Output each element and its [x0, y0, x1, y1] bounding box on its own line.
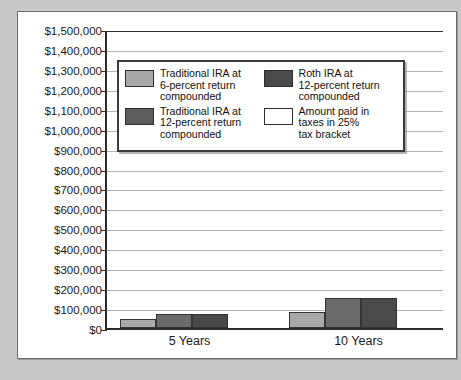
y-axis-label: $1,000,000 — [18, 125, 102, 137]
x-axis-category-label: 5 Years — [105, 334, 274, 348]
legend-label: Roth IRA at 12-percent return compounded — [299, 68, 380, 103]
legend-item: Traditional IRA at 12-percent return com… — [125, 106, 260, 141]
legend-label: Traditional IRA at 12-percent return com… — [160, 106, 241, 141]
y-axis-label: $1,400,000 — [18, 45, 102, 57]
y-axis-label: $200,000 — [18, 284, 102, 296]
y-axis-label: $900,000 — [18, 145, 102, 157]
legend-swatch-icon — [264, 70, 293, 87]
legend-item: Amount paid in taxes in 25% tax bracket — [264, 106, 399, 141]
legend-label: Traditional IRA at 6-percent return comp… — [160, 68, 241, 103]
legend-item: Roth IRA at 12-percent return compounded — [264, 68, 399, 103]
y-axis-label: $500,000 — [18, 224, 102, 236]
bar — [325, 298, 361, 328]
bar-chart: $1,500,000$1,400,000$1,300,000$1,200,000… — [18, 12, 458, 360]
chart-panel: $1,500,000$1,400,000$1,300,000$1,200,000… — [17, 11, 457, 359]
x-axis-category-labels: 5 Years10 Years — [105, 334, 443, 356]
y-axis-label: $1,200,000 — [18, 85, 102, 97]
bar — [120, 319, 156, 328]
y-axis-label: $100,000 — [18, 304, 102, 316]
bar — [289, 312, 325, 328]
legend-swatch-icon — [125, 70, 154, 87]
y-axis-labels: $1,500,000$1,400,000$1,300,000$1,200,000… — [18, 31, 102, 330]
legend-label: Amount paid in taxes in 25% tax bracket — [299, 106, 370, 141]
y-axis-tick — [101, 330, 107, 331]
legend-item: Traditional IRA at 6-percent return comp… — [125, 68, 260, 103]
x-axis-category-label: 10 Years — [274, 334, 443, 348]
y-axis-label: $1,300,000 — [18, 65, 102, 77]
y-axis-label: $1,100,000 — [18, 105, 102, 117]
bar — [156, 314, 192, 328]
legend-swatch-icon — [125, 108, 154, 125]
page-background: $1,500,000$1,400,000$1,300,000$1,200,000… — [0, 0, 461, 380]
chart-legend: Traditional IRA at 6-percent return comp… — [117, 60, 405, 152]
y-axis-label: $700,000 — [18, 184, 102, 196]
y-axis-label: $800,000 — [18, 165, 102, 177]
bar — [192, 314, 228, 328]
y-axis-label: $0 — [18, 324, 102, 336]
bar — [361, 298, 397, 328]
y-axis-label: $1,500,000 — [18, 25, 102, 37]
y-axis-label: $600,000 — [18, 204, 102, 216]
y-axis-label: $400,000 — [18, 244, 102, 256]
y-axis-label: $300,000 — [18, 264, 102, 276]
legend-swatch-icon — [264, 108, 293, 125]
